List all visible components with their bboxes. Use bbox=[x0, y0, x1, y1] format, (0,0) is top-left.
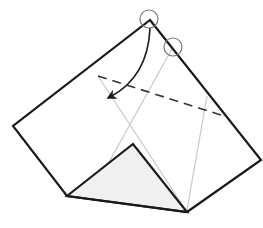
origami-diagram bbox=[0, 0, 263, 228]
valley-fold-line bbox=[98, 76, 224, 116]
guide-line bbox=[187, 96, 207, 210]
marker-circle-icon bbox=[140, 10, 158, 28]
folded-flap bbox=[67, 144, 187, 212]
diagram-canvas bbox=[0, 0, 263, 228]
